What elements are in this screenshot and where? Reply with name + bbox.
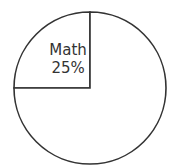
slice-label-name: Math <box>49 41 87 59</box>
pie-slices <box>14 12 166 164</box>
pie-chart: Math25% <box>0 0 176 165</box>
pie-labels: Math25% <box>49 41 87 77</box>
slice-label-value: 25% <box>51 59 84 77</box>
